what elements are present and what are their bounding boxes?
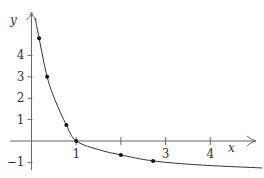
y-ticks: −11234: [7, 48, 33, 169]
y-tick-label: 4: [17, 48, 25, 62]
data-point: [119, 153, 123, 157]
data-point: [45, 75, 49, 79]
data-point: [37, 36, 41, 40]
y-tick-label: 3: [17, 70, 25, 84]
y-axis: [27, 12, 37, 170]
y-tick-label: 2: [17, 91, 25, 105]
data-point: [74, 139, 78, 143]
y-tick-label: −1: [7, 155, 25, 169]
x-axis: [10, 136, 256, 146]
x-axis-label: x: [228, 141, 235, 155]
x-tick-label: 1: [72, 147, 80, 161]
x-tick-label: 4: [206, 147, 214, 161]
x-tick-label: 3: [162, 147, 170, 161]
data-point: [151, 159, 155, 163]
function-plot: 134 −11234 x y: [0, 0, 264, 178]
y-axis-label: y: [9, 13, 17, 27]
y-tick-label: 1: [17, 113, 25, 127]
data-point: [64, 123, 68, 127]
